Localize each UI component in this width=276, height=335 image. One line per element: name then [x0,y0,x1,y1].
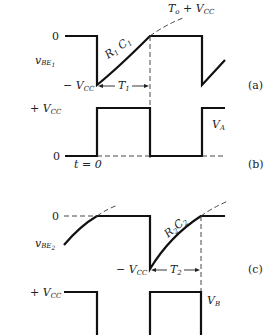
vb-pos-vcc-label: + VCC [30,286,62,300]
vbe1-trace [65,36,225,85]
vbe1-asymptote-curve [150,18,183,36]
vb-trace-left [64,292,97,335]
t1-label: T1 [118,79,130,93]
vbe2-asymptote-curve-left [97,205,118,216]
vbe2-asymptote-curve-right [201,201,228,216]
vbe1-zero-label: 0 [52,30,59,43]
vbe1-neg-vcc-label: − VCC [63,79,95,93]
va-zero-label: 0 [53,150,60,163]
panel-b-tag: (b) [248,158,264,171]
asymptote-label: To + VCC [168,2,215,16]
panel-d-vb-waveform: + VCC VB [30,286,220,335]
panel-c-tag: (c) [248,263,263,276]
arrowhead-right-icon [195,268,200,272]
vb-signal-label: VB [207,294,220,308]
vb-trace-pulse [150,292,201,335]
vbe2-zero-label: 0 [52,210,59,223]
r1c1-label: R1 C1 [101,34,134,63]
multivibrator-waveform-diagram: 0 vBE1 − VCC R1 C1 To + VCC T1 (a) + VCC… [0,0,276,335]
t-zero-label: t = 0 [74,158,102,171]
vbe1-signal-label: vBE1 [35,54,55,68]
vbe2-neg-vcc-label: − VCC [116,263,148,277]
panel-c-vbe2-waveform: 0 vBE2 − VCC R2C2 T2 (c) [35,201,263,335]
va-pos-vcc-label: + VCC [30,102,62,116]
vbe2-signal-label: vBE2 [35,237,55,251]
va-signal-label: VA [212,118,225,132]
panel-b-va-waveform: + VCC 0 t = 0 VA (b) [30,102,264,171]
va-trace [65,108,225,156]
panel-a-tag: (a) [248,79,263,92]
arrowhead-right-icon [144,84,149,88]
arrowhead-left-icon [151,268,156,272]
t2-label: T2 [170,263,182,277]
